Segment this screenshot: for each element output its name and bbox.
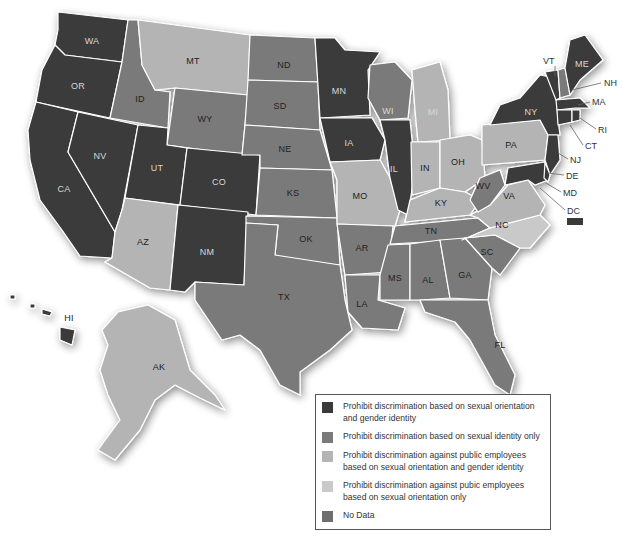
label-CO: CO [212,177,226,187]
label-RI: RI [598,125,607,135]
label-OK: OK [299,234,312,244]
label-VA: VA [503,191,515,201]
label-WY: WY [198,114,213,124]
label-NY: NY [525,107,538,117]
legend-item-public-emp-so-gi: Prohibit discrimination against public e… [322,449,544,473]
label-AZ: AZ [137,237,149,247]
label-TX: TX [278,292,290,302]
legend-label: Prohibit discrimination against pubic em… [343,479,544,503]
label-NV: NV [94,151,107,161]
legend-swatch [322,402,333,413]
label-DE: DE [566,171,579,181]
label-AK: AK [153,362,165,372]
legend-item-no-data: No Data [322,509,544,522]
legend-label: Prohibit discrimination based on sexual … [343,400,544,424]
label-ID: ID [135,94,144,104]
label-NJ: NJ [570,155,581,165]
legend-item-full-protection: Prohibit discrimination based on sexual … [322,400,544,424]
label-ME: ME [575,59,589,69]
label-MS: MS [388,273,402,283]
label-IN: IN [420,163,429,173]
label-HI: HI [64,313,73,323]
legend-swatch [322,432,333,443]
label-KS: KS [287,188,299,198]
label-IA: IA [345,138,354,148]
state-AK [98,305,225,460]
label-MD: MD [563,188,577,198]
label-NH: NH [604,78,617,88]
state-ND [248,35,318,82]
legend-label: Prohibit discrimination against public e… [343,449,544,473]
label-PA: PA [505,140,517,150]
label-MT: MT [186,56,199,66]
label-CT: CT [585,141,597,151]
label-WI: WI [382,106,393,116]
label-ND: ND [277,60,290,70]
label-DC: DC [567,206,580,216]
label-CA: CA [58,184,71,194]
label-MN: MN [332,86,346,96]
label-LA: LA [356,299,367,309]
state-MI [412,62,450,142]
label-WA: WA [85,36,100,46]
label-VT: VT [543,56,555,66]
label-TN: TN [425,226,437,236]
label-UT: UT [151,163,163,173]
label-NC: NC [495,220,508,230]
label-WV: WV [476,181,491,191]
state-CT [557,110,572,125]
dc-swatch [567,218,583,225]
legend: Prohibit discrimination based on sexual … [315,394,551,530]
legend-swatch [322,511,333,522]
label-FL: FL [495,340,506,350]
label-MO: MO [353,191,368,201]
label-NM: NM [200,247,214,257]
label-MA: MA [592,97,606,107]
label-IL: IL [390,164,398,174]
label-OR: OR [71,81,85,91]
label-KY: KY [435,198,447,208]
label-SC: SC [481,247,494,257]
label-SD: SD [274,101,287,111]
label-AL: AL [422,275,433,285]
legend-label: Prohibit discrimination based on sexual … [343,430,540,442]
label-OH: OH [451,157,465,167]
legend-item-sexual-orientation-only: Prohibit discrimination based on sexual … [322,430,544,443]
label-NE: NE [279,144,292,154]
label-GA: GA [458,270,471,280]
legend-item-public-emp-so-only: Prohibit discrimination against pubic em… [322,479,544,503]
state-RI [572,110,580,122]
legend-swatch [322,481,333,492]
state-MA [556,98,590,110]
label-MI: MI [428,107,438,117]
label-AR: AR [356,243,369,253]
legend-swatch [322,451,333,462]
legend-label: No Data [343,509,375,521]
